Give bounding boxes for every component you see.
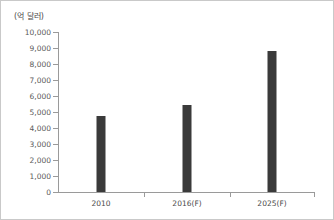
- y-axis-tick: [53, 80, 59, 81]
- y-axis-tick-label: 6,000: [5, 92, 51, 101]
- y-axis-tick: [53, 192, 59, 193]
- bar-2025f: [268, 51, 277, 192]
- x-axis-label-2010: 2010: [91, 199, 110, 208]
- y-axis-tick-label: 3,000: [5, 140, 51, 149]
- y-axis-tick-label: 4,000: [5, 124, 51, 133]
- y-axis-tick-label: 9,000: [5, 44, 51, 53]
- x-axis-line: [58, 192, 315, 193]
- y-axis-tick: [53, 160, 59, 161]
- y-axis-tick: [53, 176, 59, 177]
- plot-area: 10,000 9,000 8,000 7,000 6,000 5,000 4,0…: [1, 1, 334, 220]
- x-axis-separator-tick: [144, 192, 145, 197]
- x-axis-label-2016f: 2016(F): [172, 199, 201, 208]
- y-axis-tick-label: 8,000: [5, 60, 51, 69]
- y-axis-tick-label: 10,000: [5, 28, 51, 37]
- y-axis-tick: [53, 48, 59, 49]
- y-axis-tick: [53, 96, 59, 97]
- x-axis-label-2025f: 2025(F): [257, 199, 286, 208]
- y-axis-tick-label: 2,000: [5, 156, 51, 165]
- bar-2016f: [183, 105, 192, 192]
- y-axis-tick: [53, 64, 59, 65]
- y-axis-tick: [53, 144, 59, 145]
- x-axis-end-tick: [314, 192, 315, 197]
- bar-chart-figure: (억 달러) 10,000 9,000 8,000 7,000 6,000 5,…: [0, 0, 334, 220]
- x-axis-separator-tick: [230, 192, 231, 197]
- bar-2010: [97, 116, 106, 192]
- y-axis-tick: [53, 128, 59, 129]
- y-axis-tick-label: 5,000: [5, 108, 51, 117]
- y-axis-tick-label: 7,000: [5, 76, 51, 85]
- y-axis-tick-label: 0: [5, 188, 51, 197]
- y-axis-tick-label: 1,000: [5, 172, 51, 181]
- y-axis-tick: [53, 32, 59, 33]
- y-axis-tick: [53, 112, 59, 113]
